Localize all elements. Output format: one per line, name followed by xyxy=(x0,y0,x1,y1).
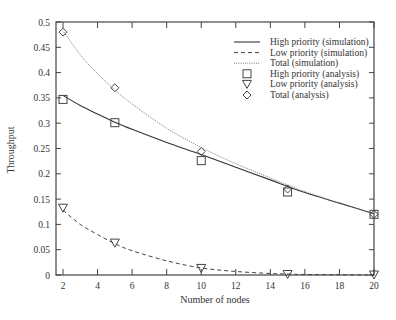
y-tick-label: 0.5 xyxy=(38,18,50,28)
triangle-down-marker xyxy=(110,239,119,247)
x-tick-label: 20 xyxy=(369,281,379,291)
legend-label: Total (simulation) xyxy=(270,58,338,69)
x-tick-label: 4 xyxy=(95,281,100,291)
legend-triangle-down-icon xyxy=(243,80,252,88)
curve-high-priority-simulation xyxy=(63,95,374,213)
x-tick-label: 8 xyxy=(164,281,169,291)
legend-label: Low priority (analysis) xyxy=(270,79,358,90)
y-tick-label: 0.3 xyxy=(38,119,50,129)
square-marker xyxy=(284,188,292,196)
y-tick-label: 0.4 xyxy=(38,68,50,78)
x-tick-label: 18 xyxy=(335,281,345,291)
x-tick-label: 12 xyxy=(231,281,241,291)
y-tick-label: 0.45 xyxy=(33,43,50,53)
legend-label: Total (analysis) xyxy=(270,90,329,101)
square-marker xyxy=(197,157,205,165)
legend-label: Low priority (simulation) xyxy=(270,48,367,59)
y-tick-label: 0.1 xyxy=(38,220,50,230)
x-tick-label: 14 xyxy=(266,281,276,291)
y-tick-label: 0.15 xyxy=(33,195,50,205)
throughput-chart: 00.050.10.150.20.250.30.350.40.450.5 246… xyxy=(0,0,396,320)
y-axis-label: Throughput xyxy=(5,126,16,173)
curve-low-priority-simulation xyxy=(63,210,374,275)
legend-square-icon xyxy=(243,70,251,78)
legend-diamond-icon xyxy=(243,91,251,99)
triangle-down-marker xyxy=(59,204,68,212)
legend: High priority (simulation)Low priority (… xyxy=(234,37,369,101)
y-tick-label: 0.2 xyxy=(38,169,50,179)
x-tick-label: 16 xyxy=(300,281,310,291)
y-tick-label: 0.35 xyxy=(33,93,50,103)
chart-svg: 00.050.10.150.20.250.30.350.40.450.5 246… xyxy=(0,0,396,320)
legend-label: High priority (simulation) xyxy=(270,37,369,48)
y-tick-label: 0 xyxy=(45,271,50,281)
x-tick-label: 6 xyxy=(130,281,135,291)
y-tick-label: 0.05 xyxy=(33,245,50,255)
y-tick-label: 0.25 xyxy=(33,144,50,154)
x-axis-label: Number of nodes xyxy=(180,294,250,305)
legend-label: High priority (analysis) xyxy=(270,69,359,80)
x-tick-label: 10 xyxy=(196,281,206,291)
x-tick-label: 2 xyxy=(61,281,66,291)
